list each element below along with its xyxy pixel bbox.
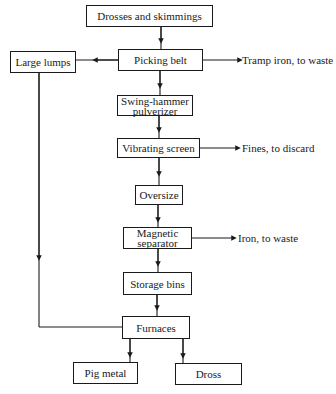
output-fines: Fines, to discard (242, 142, 314, 154)
node-large-lumps: Large lumps (10, 51, 76, 73)
node-label: Picking belt (134, 55, 187, 65)
node-label: Vibrating screen (122, 143, 194, 153)
node-label-line1: Swing-hammer (121, 96, 189, 106)
node-picking-belt: Picking belt (118, 49, 203, 71)
node-label-line2: separator (137, 238, 177, 248)
node-magnetic-separator: Magnetic separator (123, 227, 192, 249)
node-label-line2: pulverizer (133, 106, 178, 116)
output-iron: Iron, to waste (238, 232, 298, 244)
node-storage-bins: Storage bins (123, 272, 192, 295)
node-swing-hammer-pulverizer: Swing-hammer pulverizer (117, 95, 193, 116)
node-label: Dross (196, 369, 222, 379)
node-pig-metal: Pig metal (73, 362, 138, 384)
node-label: Storage bins (130, 279, 185, 289)
node-dross: Dross (175, 363, 242, 385)
flowchart: Drosses and skimmings Picking belt Large… (0, 0, 336, 394)
node-drosses-and-skimmings: Drosses and skimmings (86, 5, 213, 27)
node-label: Oversize (139, 190, 178, 200)
output-tramp-iron: Tramp iron, to waste (242, 54, 333, 66)
node-label: Drosses and skimmings (97, 11, 202, 21)
node-label: Large lumps (15, 57, 70, 67)
node-label: Furnaces (136, 323, 176, 333)
node-label: Pig metal (85, 368, 127, 378)
node-furnaces: Furnaces (122, 316, 190, 339)
node-vibrating-screen: Vibrating screen (117, 138, 200, 158)
node-oversize: Oversize (135, 185, 183, 205)
